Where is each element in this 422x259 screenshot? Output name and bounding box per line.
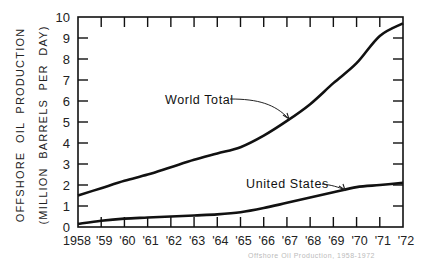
y-tick-label: 0 [63,220,70,235]
plot-frame [78,17,403,227]
x-tick-label: '59 [96,234,112,248]
x-tick-label: '61 [142,234,158,248]
y-tick-label: 9 [63,31,70,46]
x-tick-label: '66 [259,234,275,248]
y-tick-label: 7 [63,73,70,88]
world-total-line [78,23,403,195]
figure-caption-cropped: Offshore Oil Production, 1958-1972 [248,252,375,259]
plot-area: 0123456789101958'59'60'61'62'63'64'65'66… [0,0,422,259]
x-tick-label: '62 [166,234,182,248]
x-tick-label: '68 [305,234,321,248]
world-total-annotation-arrow [230,99,289,119]
y-tick-label: 10 [56,10,70,25]
world-total-annotation-label: World Total [165,93,234,107]
y-tick-label: 3 [63,157,70,172]
y-tick-label: 4 [63,136,70,151]
y-tick-label: 5 [63,115,70,130]
x-tick-label: '71 [375,234,391,248]
x-tick-label: '64 [212,234,228,248]
x-tick-label: 1958 [63,234,91,248]
offshore-oil-production-chart: 0123456789101958'59'60'61'62'63'64'65'66… [0,0,422,259]
x-tick-label: '72 [398,234,414,248]
x-tick-label: '60 [119,234,135,248]
x-tick-label: '65 [235,234,251,248]
y-axis-label-line-1: OFFSHORE OIL PRODUCTION [14,28,26,223]
x-tick-label: '63 [189,234,205,248]
y-tick-label: 2 [63,178,70,193]
y-axis-label-line-2: (MILLION BARRELS PER DAY) [36,25,48,224]
y-tick-label: 1 [63,199,70,214]
united-states-annotation-label: United States [246,177,329,191]
x-tick-label: '69 [328,234,344,248]
y-tick-label: 6 [63,94,70,109]
y-tick-label: 8 [63,52,70,67]
x-tick-label: '67 [282,234,298,248]
x-tick-label: '70 [351,234,367,248]
